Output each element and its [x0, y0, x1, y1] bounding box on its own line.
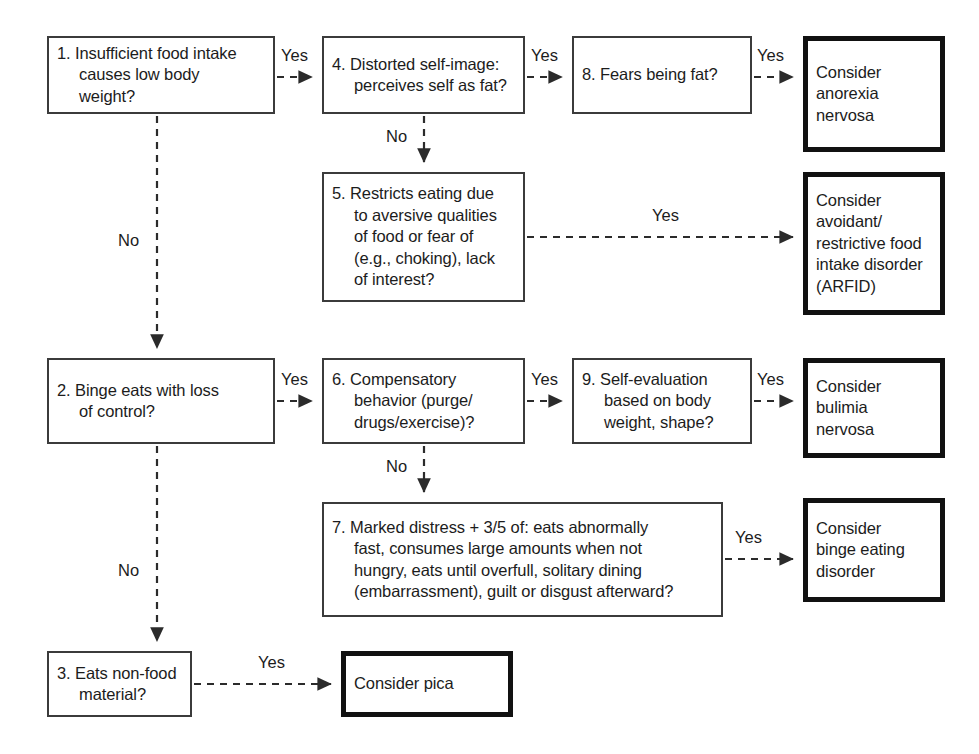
- edge-label-e-q4-q8: Yes: [531, 47, 558, 64]
- node-label: 7. Marked distress + 3/5 of: eats abnorm…: [332, 517, 673, 603]
- outcome-node-o-pica: Consider pica: [341, 651, 513, 717]
- outcome-node-o-bed: Consider binge eating disorder: [803, 498, 945, 602]
- edge-label-e-q3-pica: Yes: [258, 654, 285, 671]
- question-node-q5: 5. Restricts eating due to aversive qual…: [322, 172, 525, 302]
- node-label: Consider bulimia nervosa: [816, 376, 881, 440]
- node-label: Consider avoidant/ restrictive food inta…: [816, 190, 923, 297]
- edge-label-e-q9-bulimia: Yes: [757, 371, 784, 388]
- node-label: 8. Fears being fat?: [582, 64, 718, 85]
- edge-label-e-q4-q5: No: [386, 128, 407, 145]
- node-label: 3. Eats non-food material?: [57, 663, 176, 706]
- question-node-q1: 1. Insufficient food intake causes low b…: [47, 36, 275, 114]
- node-label: Consider anorexia nervosa: [816, 62, 881, 126]
- question-node-q4: 4. Distorted self-image: perceives self …: [322, 36, 525, 114]
- edge-label-e-q1-q4: Yes: [281, 47, 308, 64]
- node-label: Consider binge eating disorder: [816, 518, 905, 582]
- edge-label-e-q6-q9: Yes: [531, 371, 558, 388]
- edge-label-e-q5-arfid: Yes: [652, 207, 679, 224]
- edge-label-e-q7-bed: Yes: [735, 529, 762, 546]
- node-label: 6. Compensatory behavior (purge/ drugs/e…: [332, 369, 474, 433]
- question-node-q2: 2. Binge eats with loss of control?: [47, 358, 275, 444]
- edge-label-e-q6-q7: No: [386, 458, 407, 475]
- outcome-node-o-bulimia: Consider bulimia nervosa: [803, 358, 945, 458]
- question-node-q8: 8. Fears being fat?: [572, 36, 752, 114]
- node-label: 2. Binge eats with loss of control?: [57, 380, 219, 423]
- node-label: 5. Restricts eating due to aversive qual…: [332, 183, 497, 290]
- question-node-q3: 3. Eats non-food material?: [47, 651, 192, 717]
- question-node-q6: 6. Compensatory behavior (purge/ drugs/e…: [322, 358, 525, 444]
- edge-label-e-q8-anorexia: Yes: [757, 47, 784, 64]
- question-node-q7: 7. Marked distress + 3/5 of: eats abnorm…: [322, 502, 723, 617]
- node-label: Consider pica: [354, 673, 454, 694]
- node-label: 4. Distorted self-image: perceives self …: [332, 54, 507, 97]
- node-label: 1. Insufficient food intake causes low b…: [57, 43, 237, 107]
- edge-label-e-q2-q3: No: [118, 562, 139, 579]
- outcome-node-o-arfid: Consider avoidant/ restrictive food inta…: [803, 172, 945, 315]
- edge-label-e-q2-q6: Yes: [281, 371, 308, 388]
- question-node-q9: 9. Self-evaluation based on body weight,…: [572, 358, 752, 444]
- edge-label-e-q1-q2: No: [118, 232, 139, 249]
- node-label: 9. Self-evaluation based on body weight,…: [582, 369, 714, 433]
- outcome-node-o-anorexia: Consider anorexia nervosa: [803, 36, 945, 152]
- flowchart-canvas: 1. Insufficient food intake causes low b…: [0, 0, 979, 754]
